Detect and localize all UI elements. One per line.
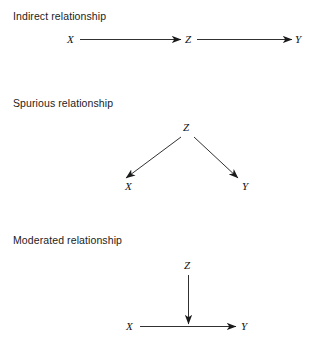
arrow-layer <box>0 0 315 345</box>
node-moderated-z: Z <box>184 260 190 271</box>
node-moderated-x: X <box>126 321 133 332</box>
node-spurious-z: Z <box>183 122 189 133</box>
section-label-indirect: Indirect relationship <box>13 11 106 22</box>
section-label-spurious: Spurious relationship <box>13 98 113 109</box>
node-spurious-y: Y <box>242 181 248 192</box>
node-moderated-y: Y <box>241 321 247 332</box>
node-indirect-z: Z <box>185 34 191 45</box>
arrow-spurious-z-to-y <box>194 137 238 178</box>
node-indirect-y: Y <box>295 34 301 45</box>
section-label-moderated: Moderated relationship <box>13 235 122 246</box>
arrow-spurious-z-to-x <box>126 137 181 178</box>
node-spurious-x: X <box>125 181 132 192</box>
diagram-canvas: Indirect relationship Spurious relations… <box>0 0 315 345</box>
node-indirect-x: X <box>67 34 74 45</box>
